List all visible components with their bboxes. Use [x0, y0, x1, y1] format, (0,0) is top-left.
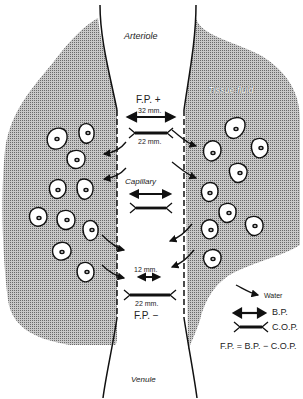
- legend-cop-arrow-icon: [234, 322, 268, 332]
- fp-minus-label: F.P. −: [134, 311, 159, 321]
- capillary-filtration-diagram: Arteriole Tissue fluid F.P. + 32 mm. 22 …: [0, 0, 303, 399]
- legend-bp-arrow-icon: [234, 309, 265, 317]
- legend-cop-label: C.O.P.: [272, 323, 298, 332]
- legend-bp-label: B.P.: [272, 308, 288, 317]
- tissue-fluid-label: Tissue fluid: [208, 86, 253, 95]
- bp-venous-value: 12 mm.: [134, 266, 157, 273]
- legend-equation: F.P. = B.P. − C.O.P.: [220, 342, 297, 351]
- cop-arterial-value: 22 mm.: [138, 138, 161, 145]
- fp-plus-label: F.P. +: [136, 95, 161, 105]
- tissue-region-right: [185, 18, 300, 350]
- venule-label: Venule: [131, 376, 156, 384]
- cop-venous-value: 22 mm.: [135, 300, 158, 307]
- diagram-graphics: [0, 0, 303, 399]
- arteriole-label: Arteriole: [124, 32, 158, 41]
- capillary-label: Capillary: [125, 178, 156, 186]
- legend-water-arrow-icon: [236, 285, 258, 295]
- legend-water-label: Water: [264, 292, 282, 299]
- bp-arterial-value: 32 mm.: [138, 107, 161, 114]
